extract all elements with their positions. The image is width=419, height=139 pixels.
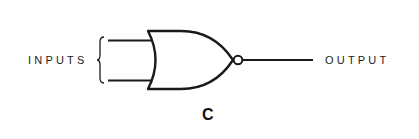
inputs-brace [97,37,104,83]
nor-gate-diagram: INPUTS OUTPUT C [0,0,419,139]
inversion-bubble [234,56,243,65]
output-label: OUTPUT [325,54,389,66]
inputs-label: INPUTS [28,54,88,66]
nor-gate-body [148,31,233,89]
figure-caption: C [202,106,214,124]
